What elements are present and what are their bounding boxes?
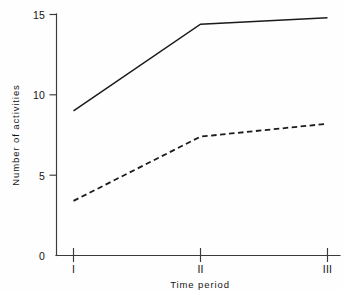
line-chart: 15 10 5 0 I II III Number of activities … [0,0,343,290]
y-tick-label-5: 5 [39,170,45,182]
y-axis-title: Number of activities [10,84,21,185]
chart-figure: 15 10 5 0 I II III Number of activities … [0,0,343,290]
y-tick-label-15: 15 [33,9,45,21]
series-dashed-line [74,124,328,201]
series-solid-line [74,18,328,111]
y-tick-label-0: 0 [39,250,45,262]
x-axis-title: Time period [170,279,230,290]
x-tick-label-I: I [72,263,75,275]
x-tick-label-II: II [197,263,203,275]
x-tick-label-III: III [323,263,332,275]
y-tick-label-10: 10 [33,89,45,101]
